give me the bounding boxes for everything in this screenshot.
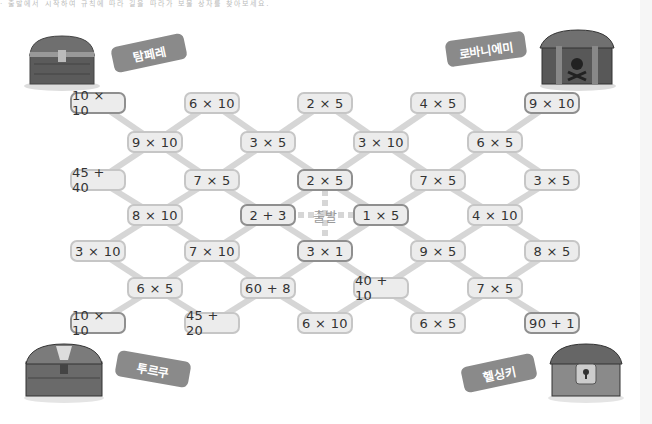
maze-cell[interactable]: 45 + 20 — [184, 312, 240, 334]
treasure-chest-icon — [22, 30, 104, 92]
maze-cell[interactable]: 7 × 10 — [184, 240, 240, 262]
maze-cell[interactable]: 3 × 1 — [297, 240, 353, 262]
maze-cell[interactable]: 2 × 5 — [297, 169, 353, 191]
maze-cell[interactable]: 8 × 5 — [524, 240, 580, 262]
maze-cell[interactable]: 7 × 5 — [467, 277, 523, 299]
maze-cell[interactable]: 6 × 10 — [297, 312, 353, 334]
maze-cell[interactable]: 7 × 5 — [184, 169, 240, 191]
maze-cell[interactable]: 4 × 5 — [410, 92, 466, 114]
maze-cell[interactable]: 8 × 10 — [127, 204, 183, 226]
maze-cell[interactable]: 45 + 40 — [70, 169, 126, 191]
maze-cell[interactable]: 4 × 10 — [467, 204, 523, 226]
maze-cell[interactable]: 6 × 5 — [410, 312, 466, 334]
maze-cell[interactable]: 10 × 10 — [70, 92, 126, 114]
maze-cell[interactable]: 1 × 5 — [353, 204, 409, 226]
maze-cell[interactable]: 2 × 5 — [297, 92, 353, 114]
maze-cell[interactable]: 6 × 10 — [184, 92, 240, 114]
treasure-chest-icon — [22, 338, 108, 404]
maze-cell[interactable]: 3 × 10 — [353, 131, 409, 153]
maze-cell[interactable]: 40 + 10 — [353, 277, 409, 299]
pirate-chest-icon — [536, 26, 618, 92]
maze-cell[interactable]: 90 + 1 — [524, 312, 580, 334]
maze-cell[interactable]: 6 × 5 — [127, 277, 183, 299]
maze-cell[interactable]: 3 × 5 — [240, 131, 296, 153]
maze-cell[interactable]: 3 × 5 — [524, 169, 580, 191]
maze-cell[interactable]: 60 + 8 — [240, 277, 296, 299]
maze-cell[interactable]: 9 × 5 — [410, 240, 466, 262]
start-label: 출발 — [313, 206, 337, 225]
locked-chest-icon — [546, 340, 626, 404]
maze-cell[interactable]: 3 × 10 — [70, 240, 126, 262]
page-edge — [640, 0, 652, 424]
maze-cell[interactable]: 7 × 5 — [410, 169, 466, 191]
maze-cell[interactable]: 9 × 10 — [524, 92, 580, 114]
maze-cell[interactable]: 6 × 5 — [467, 131, 523, 153]
maze-cell[interactable]: 9 × 10 — [127, 131, 183, 153]
maze-cell[interactable]: 10 × 10 — [70, 312, 126, 334]
maze-cell[interactable]: 2 + 3 — [240, 204, 296, 226]
